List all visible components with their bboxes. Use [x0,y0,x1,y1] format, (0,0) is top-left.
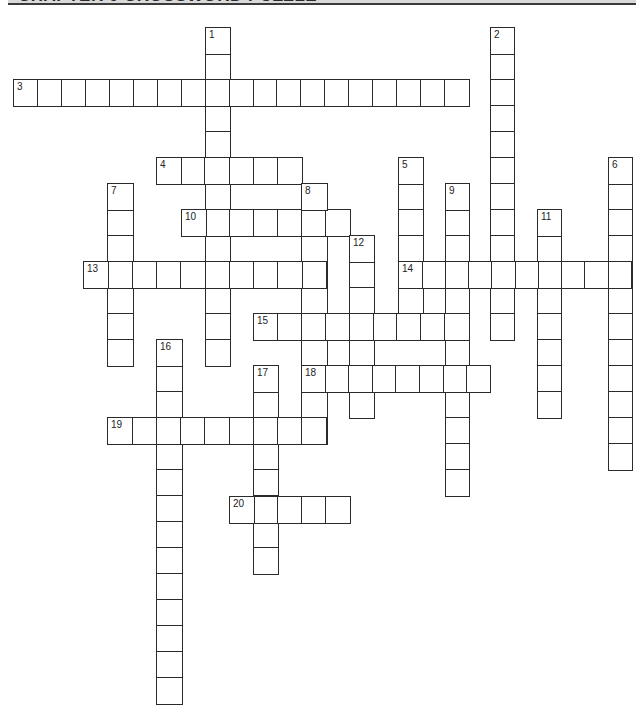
crossword-cell-15-across-2[interactable] [277,313,302,341]
crossword-cell-1-down-4[interactable] [205,105,231,133]
crossword-cell-2-down-9[interactable] [490,235,515,263]
crossword-cell-10-across-4[interactable] [253,209,279,237]
crossword-cell-3-across-6[interactable] [133,79,158,107]
crossword-cell-3-across-9[interactable] [205,79,230,107]
crossword-cell-17-down-1[interactable]: 17 [253,365,279,393]
crossword-cell-15-across-3[interactable] [301,313,326,341]
crossword-cell-19-across-6[interactable] [229,417,255,445]
crossword-cell-14-across-9[interactable] [584,261,609,289]
crossword-cell-17-down-7[interactable] [253,521,279,549]
crossword-cell-17-down-8[interactable] [253,547,279,575]
crossword-cell-16-down-2[interactable] [156,365,183,393]
crossword-cell-3-across-12[interactable] [276,79,301,107]
crossword-cell-2-down-4[interactable] [490,105,515,133]
crossword-cell-9-down-12[interactable] [445,469,470,497]
crossword-cell-9-down-3[interactable] [445,235,470,263]
crossword-cell-3-across-7[interactable] [157,79,182,107]
crossword-cell-2-down-12[interactable] [490,313,515,341]
crossword-cell-17-down-5[interactable] [253,469,279,497]
crossword-cell-16-down-3[interactable] [156,391,183,419]
crossword-cell-16-down-11[interactable] [156,599,183,627]
crossword-cell-20-across-3[interactable] [277,496,303,524]
crossword-cell-12-down-2[interactable] [349,261,375,289]
crossword-cell-4-across-5[interactable] [253,157,279,185]
crossword-cell-19-across-2[interactable] [131,417,157,445]
crossword-cell-16-down-13[interactable] [156,651,183,679]
crossword-cell-2-down-3[interactable] [490,79,515,107]
crossword-cell-3-across-18[interactable] [420,79,445,107]
crossword-cell-8-down-1[interactable]: 8 [301,183,328,211]
crossword-cell-11-down-8[interactable] [537,391,562,419]
crossword-cell-9-down-9[interactable] [445,391,470,419]
crossword-cell-15-across-9[interactable] [444,313,469,341]
crossword-cell-9-down-7[interactable] [445,339,470,367]
crossword-cell-6-down-2[interactable] [608,183,633,211]
crossword-cell-17-down-2[interactable] [253,391,279,419]
crossword-cell-2-down-2[interactable] [490,53,515,81]
crossword-cell-4-across-4[interactable] [229,157,255,185]
crossword-cell-1-down-11[interactable] [205,287,231,315]
crossword-cell-2-down-8[interactable] [490,209,515,237]
crossword-cell-14-across-6[interactable] [515,261,540,289]
crossword-cell-3-across-19[interactable] [444,79,469,107]
crossword-cell-11-down-6[interactable] [537,339,562,367]
crossword-cell-2-down-1[interactable]: 2 [490,27,515,55]
crossword-cell-12-down-5[interactable] [349,339,375,367]
crossword-cell-13-across-7[interactable] [229,261,255,289]
crossword-cell-20-across-5[interactable] [325,496,351,524]
crossword-cell-19-across-4[interactable] [180,417,206,445]
crossword-cell-3-across-11[interactable] [253,79,278,107]
crossword-cell-9-down-10[interactable] [445,417,470,445]
crossword-cell-11-down-7[interactable] [537,365,562,393]
crossword-cell-11-down-1[interactable]: 11 [537,209,562,237]
crossword-cell-2-down-5[interactable] [490,131,515,159]
crossword-cell-19-across-5[interactable] [204,417,230,445]
crossword-cell-18-across-5[interactable] [395,365,420,393]
crossword-cell-18-across-8[interactable] [466,365,491,393]
crossword-cell-6-down-10[interactable] [608,391,633,419]
crossword-cell-3-across-13[interactable] [300,79,325,107]
crossword-cell-19-across-7[interactable] [253,417,279,445]
crossword-cell-14-across-7[interactable] [538,261,563,289]
crossword-cell-14-across-5[interactable] [491,261,516,289]
crossword-cell-5-down-3[interactable] [398,209,424,237]
crossword-cell-1-down-5[interactable] [205,131,231,159]
crossword-cell-10-across-5[interactable] [277,209,303,237]
crossword-cell-14-across-8[interactable] [561,261,586,289]
crossword-cell-3-across-14[interactable] [324,79,349,107]
crossword-cell-9-down-5[interactable] [445,287,470,315]
crossword-cell-6-down-7[interactable] [608,313,633,341]
crossword-cell-1-down-13[interactable] [205,339,231,367]
crossword-cell-10-across-1[interactable]: 10 [181,209,207,237]
crossword-cell-6-down-8[interactable] [608,339,633,367]
crossword-cell-7-down-3[interactable] [107,235,134,263]
crossword-cell-1-down-2[interactable] [205,53,231,81]
crossword-cell-16-down-6[interactable] [156,469,183,497]
crossword-cell-1-down-7[interactable] [205,183,231,211]
crossword-cell-13-across-9[interactable] [277,261,303,289]
crossword-cell-16-down-8[interactable] [156,521,183,549]
crossword-cell-6-down-4[interactable] [608,235,633,263]
crossword-cell-20-across-2[interactable] [253,496,279,524]
crossword-cell-14-across-3[interactable] [445,261,470,289]
crossword-cell-5-down-4[interactable] [398,235,424,263]
crossword-cell-18-across-6[interactable] [419,365,444,393]
crossword-cell-10-across-3[interactable] [229,209,255,237]
crossword-cell-6-down-11[interactable] [608,417,633,445]
crossword-cell-19-across-3[interactable] [156,417,182,445]
crossword-cell-6-down-12[interactable] [608,443,633,471]
crossword-cell-7-down-1[interactable]: 7 [107,183,134,211]
crossword-cell-8-down-3[interactable] [301,235,328,263]
crossword-cell-4-across-3[interactable] [204,157,230,185]
crossword-cell-2-down-6[interactable] [490,157,515,185]
crossword-cell-7-down-7[interactable] [107,339,134,367]
crossword-cell-14-across-1[interactable]: 14 [398,261,423,289]
crossword-cell-5-down-1[interactable]: 5 [398,157,424,185]
crossword-cell-12-down-1[interactable]: 12 [349,235,375,263]
crossword-cell-12-down-7[interactable] [349,391,375,419]
crossword-cell-6-down-3[interactable] [608,209,633,237]
crossword-cell-15-across-4[interactable] [325,313,350,341]
crossword-cell-15-across-1[interactable]: 15 [253,313,278,341]
crossword-cell-13-across-2[interactable] [107,261,133,289]
crossword-cell-11-down-4[interactable] [537,287,562,315]
